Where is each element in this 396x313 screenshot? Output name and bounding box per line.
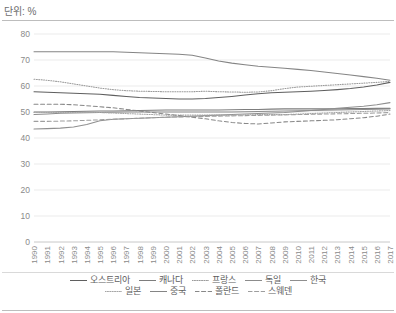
y-axis-tick-labels: 01020304050607080 [21,29,31,247]
y-tick-label: 50 [21,107,31,117]
legend-swatch-france [192,277,209,284]
y-tick-label: 10 [21,211,31,221]
x-tick-label: 2010 [294,245,303,263]
x-tick-label: 2008 [268,245,277,263]
x-tick-label: 1994 [83,245,92,263]
bottom-divider [2,310,394,311]
y-tick-label: 80 [21,29,31,39]
x-tick-label: 2009 [281,245,290,263]
x-tick-label: 1993 [70,245,79,263]
y-tick-label: 20 [21,185,31,195]
x-tick-label: 2004 [215,245,224,263]
series-line-poland [34,104,390,124]
legend-label-korea: 한국 [310,275,326,285]
x-tick-label: 2006 [241,245,250,263]
series-line-china [34,52,390,81]
x-tick-label: 2013 [333,245,342,263]
x-tick-label: 2011 [307,245,316,263]
legend-item-poland[interactable]: 폴란드 [195,286,239,296]
legend-label-japan: 일본 [125,286,141,296]
legend-label-china: 중국 [170,286,186,296]
legend-item-germany[interactable]: 독일 [245,275,281,285]
legend-row-1: 오스트리아캐나다프랑스독일한국 [70,275,326,285]
legend-swatch-sweden [248,288,265,295]
legend-swatch-germany [245,277,262,284]
x-tick-label: 1998 [136,245,145,263]
chart-container: 단위: % 01020304050607080 1990199119921993… [0,0,396,313]
x-tick-label: 1997 [122,245,131,263]
x-tick-label: 1999 [149,245,158,263]
legend-row-2: 일본중국폴란드스웨덴 [105,286,292,296]
x-axis-tick-labels: 1990199119921993199419951996199719981999… [30,245,395,263]
legend-item-china[interactable]: 중국 [150,286,186,296]
y-tick-label: 70 [21,55,31,65]
legend-swatch-china [150,288,167,295]
gridlines [34,34,390,242]
x-tick-label: 2012 [320,245,329,263]
legend-swatch-korea [290,277,307,284]
x-tick-label: 1991 [43,245,52,263]
x-tick-label: 2015 [360,245,369,263]
x-tick-label: 2016 [373,245,382,263]
legend-label-canada: 캐나다 [159,275,183,285]
x-tick-label: 2001 [175,245,184,263]
legend-item-sweden[interactable]: 스웨덴 [248,286,292,296]
x-tick-label: 1995 [96,245,105,263]
legend-swatch-japan [105,288,122,295]
legend-label-poland: 폴란드 [215,286,239,296]
y-tick-label: 30 [21,159,31,169]
legend-item-korea[interactable]: 한국 [290,275,326,285]
x-tick-label: 2014 [347,245,356,263]
x-tick-label: 1990 [30,245,39,263]
legend-label-germany: 독일 [265,275,281,285]
x-tick-label: 2000 [162,245,171,263]
x-tick-label: 2005 [228,245,237,263]
legend-item-france[interactable]: 프랑스 [192,275,236,285]
legend-label-austria: 오스트리아 [90,275,130,285]
legend-swatch-canada [139,277,156,284]
legend-label-sweden: 스웨덴 [268,286,292,296]
x-tick-label: 2003 [202,245,211,263]
chart-legend: 오스트리아캐나다프랑스독일한국 일본중국폴란드스웨덴 [0,275,396,296]
legend-swatch-austria [70,277,87,284]
line-chart-plot: 01020304050607080 1990199119921993199419… [0,0,396,313]
series-lines [34,52,390,129]
x-tick-label: 1992 [57,245,66,263]
y-tick-label: 0 [25,237,30,247]
x-tick-label: 2002 [188,245,197,263]
y-tick-label: 60 [21,81,31,91]
x-tick-label: 2007 [254,245,263,263]
legend-label-france: 프랑스 [212,275,236,285]
legend-swatch-poland [195,288,212,295]
legend-top-divider [2,272,394,273]
series-line-korea [34,103,390,129]
legend-item-japan[interactable]: 일본 [105,286,141,296]
x-tick-label: 1996 [109,245,118,263]
legend-item-canada[interactable]: 캐나다 [139,275,183,285]
x-tick-label: 2017 [386,245,395,263]
y-tick-label: 40 [21,133,31,143]
legend-item-austria[interactable]: 오스트리아 [70,275,130,285]
